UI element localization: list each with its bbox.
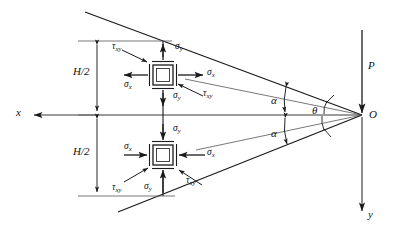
top-tau-upper-label: τxy bbox=[112, 42, 121, 52]
dimension-label-lower: H/2 bbox=[73, 146, 90, 157]
angle-label-alpha-upper: α bbox=[271, 95, 277, 106]
bottom-sigma-y-bottom-label: σy bbox=[144, 182, 152, 192]
angle-label-alpha-lower: α bbox=[271, 128, 277, 139]
bottom-element-square bbox=[153, 145, 173, 165]
top-tau-upper-leader bbox=[122, 50, 147, 62]
angle-label-theta: θ bbox=[312, 105, 317, 116]
wedge-boundary-upper bbox=[85, 12, 362, 115]
top-tau-lower-leader bbox=[178, 84, 203, 96]
bottom-tau-left-leader bbox=[124, 168, 148, 182]
diagram-vector-layer bbox=[0, 0, 399, 226]
top-sigma-y-top-label: σy bbox=[175, 42, 183, 52]
angle-tick-lower bbox=[322, 116, 331, 137]
y-axis-label: y bbox=[368, 209, 373, 220]
top-tau-lower-label: τxy bbox=[203, 89, 212, 99]
top-sigma-x-right-label: σx bbox=[207, 68, 215, 78]
x-axis-label: x bbox=[16, 107, 21, 118]
diagram-canvas: x O y P H/2 H/2 α α θ τxy τxy σy σy σx σ… bbox=[0, 0, 399, 226]
bottom-sigma-x-left-label: σx bbox=[124, 142, 132, 152]
bottom-tau-left-label: τxy bbox=[112, 183, 121, 193]
top-sigma-x-left-label: σx bbox=[124, 80, 132, 90]
top-element-square bbox=[153, 65, 173, 85]
origin-label-O: O bbox=[369, 109, 377, 120]
bottom-tau-right-label: τxy bbox=[186, 176, 195, 186]
top-sigma-y-bottom-label: σy bbox=[173, 91, 181, 101]
bottom-sigma-x-right-label: σx bbox=[207, 148, 215, 158]
wedge-inner-ray-lower bbox=[196, 115, 362, 150]
bottom-sigma-y-top-label: σy bbox=[173, 124, 181, 134]
dimension-label-upper: H/2 bbox=[73, 66, 90, 77]
wedge-boundary-lower bbox=[118, 115, 362, 212]
load-label-P: P bbox=[368, 60, 375, 71]
